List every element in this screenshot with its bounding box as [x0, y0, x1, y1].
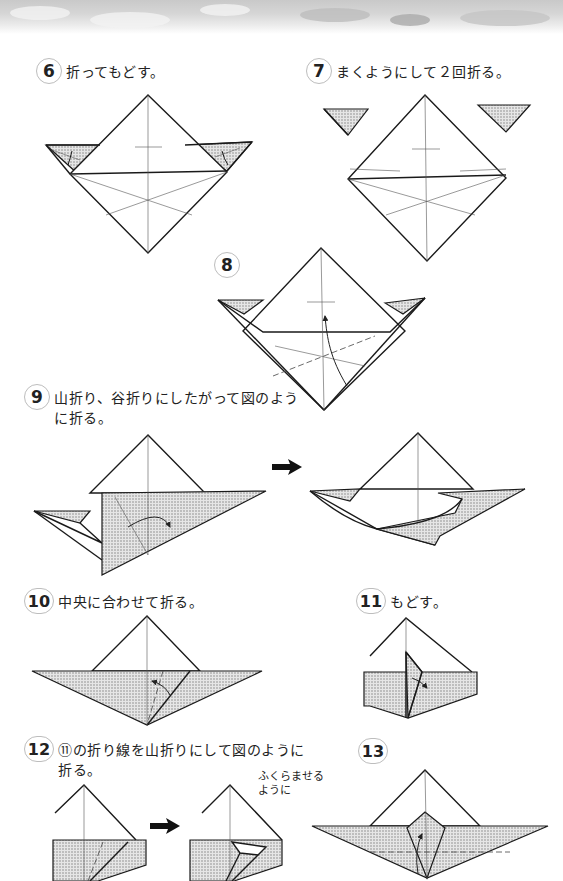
step-7-label: 7 まくようにして２回折る。: [306, 58, 510, 84]
arrow-12-icon: [150, 818, 180, 834]
step-10-text: 中央に合わせて折る。: [58, 592, 203, 612]
header-cloud-banner: [0, 0, 563, 34]
step-9a-diagram: [30, 435, 270, 575]
step-11-number: 11: [356, 588, 386, 614]
step-10-diagram: [30, 615, 270, 730]
step-6-label: 6 折ってもどす。: [36, 58, 165, 84]
step-9-label: 9 山折り、谷折りにしたがって図のよう に折る。: [24, 384, 299, 428]
step-7-number: 7: [306, 58, 332, 84]
step-9-text: 山折り、谷折りにしたがって図のよう に折る。: [54, 388, 299, 428]
step-9-number: 9: [24, 384, 50, 410]
arrow-9-icon: [272, 459, 302, 475]
step-10-number: 10: [24, 588, 54, 614]
step-6-number: 6: [36, 58, 62, 84]
step-9-text-line2: に折る。: [54, 410, 112, 426]
step-7-diagram: [320, 95, 530, 265]
step-12a-diagram: [50, 785, 150, 881]
step-6-text: 折ってもどす。: [66, 62, 165, 82]
step-12-text-line1: ⑪の折り線を山折りにして図のように: [58, 742, 305, 758]
step-12-number: 12: [24, 736, 54, 762]
step-9-text-line1: 山折り、谷折りにしたがって図のよう: [54, 390, 299, 406]
step-11-text: もどす。: [390, 592, 447, 612]
step-13-diagram: [310, 770, 550, 881]
step-9b-diagram: [305, 433, 560, 573]
step-6-diagram: [40, 95, 240, 265]
step-13-label: 13: [358, 738, 388, 764]
step-7-text: まくようにして２回折る。: [336, 62, 510, 82]
step-13-number: 13: [358, 738, 388, 764]
step-11-label: 11 もどす。: [356, 588, 447, 614]
step-12b-diagram: [186, 785, 286, 881]
step-11-diagram: [362, 612, 502, 722]
step-10-label: 10 中央に合わせて折る。: [24, 588, 203, 614]
step-12-text-line2: 折る。: [58, 762, 102, 778]
